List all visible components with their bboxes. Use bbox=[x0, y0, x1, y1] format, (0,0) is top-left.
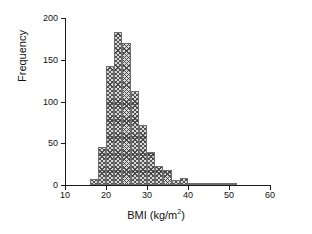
x-tick-label: 30 bbox=[142, 190, 152, 200]
y-tick bbox=[61, 185, 65, 186]
y-tick-label: 0 bbox=[53, 180, 58, 190]
histogram-bar bbox=[114, 32, 122, 185]
y-axis-line bbox=[65, 18, 66, 186]
x-axis-label: BMI (kg/m2) bbox=[0, 208, 312, 221]
histogram-bar bbox=[131, 91, 139, 185]
x-axis-label-base: BMI (kg/m bbox=[127, 209, 177, 221]
histogram-figure: 102030405060 050100150200 BMI (kg/m2) Fr… bbox=[0, 0, 312, 234]
y-tick-label: 50 bbox=[48, 138, 58, 148]
y-tick-label: 150 bbox=[43, 55, 58, 65]
histogram-bar bbox=[122, 43, 130, 185]
histogram-bar bbox=[106, 66, 114, 185]
y-axis-label: Frequency bbox=[16, 0, 28, 126]
y-tick bbox=[61, 60, 65, 61]
y-tick bbox=[61, 18, 65, 19]
x-tick-label: 10 bbox=[60, 190, 70, 200]
histogram-bar bbox=[180, 178, 188, 186]
histogram-bar bbox=[155, 166, 163, 185]
y-tick-label: 200 bbox=[43, 13, 58, 23]
y-tick bbox=[61, 143, 65, 144]
x-tick-label: 40 bbox=[183, 190, 193, 200]
histogram-bar bbox=[139, 125, 147, 185]
histogram-bar bbox=[98, 147, 106, 185]
y-tick-label: 100 bbox=[43, 97, 58, 107]
x-tick-label: 50 bbox=[224, 190, 234, 200]
x-tick-label: 20 bbox=[101, 190, 111, 200]
histogram-bar bbox=[147, 152, 155, 185]
histogram-bar bbox=[163, 170, 171, 185]
y-tick bbox=[61, 102, 65, 103]
plot-area: 102030405060 050100150200 BMI (kg/m2) Fr… bbox=[0, 0, 312, 234]
x-axis-line bbox=[65, 185, 271, 186]
x-axis-label-tail: ) bbox=[181, 209, 185, 221]
x-tick-label: 60 bbox=[265, 190, 275, 200]
